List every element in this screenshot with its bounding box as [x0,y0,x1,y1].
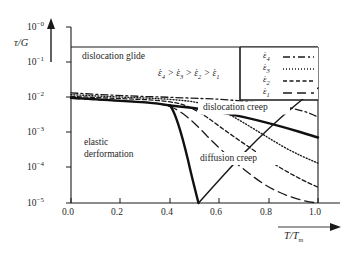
region-label-dislocation-creep: dislocation creep [203,103,268,113]
inequality-gt-2: > [186,68,192,78]
inequality-eps3: ̇ε3 [176,68,183,78]
x-tick-label-0: 0.0 [62,208,74,218]
y-tick-label-3: 10−3 [27,126,44,138]
deformation-mechanism-map-figure: 10−0 10−1 10−2 10−3 10−4 10−5 0.0 0.2 0.… [0,0,352,254]
y-tick-label-2: 10−2 [27,91,44,103]
x-tick-label-5: 1.0 [309,208,321,218]
inequality-eps2: ̇ε2 [194,68,201,78]
region-label-elastic-deformation-line1: elastic [84,138,108,148]
legend-label-eps4: ̇ε4 [263,51,270,62]
inequality-eps4: ̇ε4 [158,68,165,78]
inequality-eps1: ̇ε1 [213,68,220,78]
strain-rate-inequality: ̇ε4 > ̇ε3 > ̇ε2 > ̇ε1 [158,69,220,80]
curve-glide-plunge [170,106,199,204]
legend-label-eps1: ̇ε1 [263,87,270,98]
region-label-dislocation-glide: dislocation glide [82,52,145,62]
y-tick-label-5: 10−5 [27,197,44,209]
legend-mask [240,47,318,100]
inequality-gt-3: > [204,68,210,78]
legend-label-eps2: ̇ε2 [263,75,270,86]
y-axis-group [66,27,71,203]
legend-label-eps3: ̇ε3 [263,63,270,74]
x-axis-title: T/Tm [284,231,303,244]
x-tick-label-4: 0.8 [260,208,272,218]
x-axis-group [71,198,340,203]
y-axis-arrow [47,18,55,62]
y-tick-label-1: 10−1 [27,56,44,68]
plot-canvas [0,0,352,254]
y-axis-title: τ/G [14,38,28,49]
y-tick-label-4: 10−4 [27,161,44,173]
x-tick-label-3: 0.6 [210,208,222,218]
x-tick-label-1: 0.2 [111,208,123,218]
inequality-gt-1: > [167,68,173,78]
region-label-elastic-deformation-line2: derformation [84,150,134,160]
y-tick-label-0: 10−0 [27,21,44,33]
x-tick-label-2: 0.4 [161,208,173,218]
region-label-diffusion-creep: diffusion creep [200,154,257,164]
